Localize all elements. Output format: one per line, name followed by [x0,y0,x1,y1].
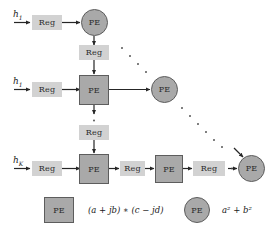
legend-pe-square: PE [44,197,74,223]
reg-row3-third[interactable]: Reg [193,161,225,176]
diagram-canvas: h1 h1 hK Reg PE Reg Reg PE PE Reg Reg PE… [0,0,272,236]
arrow-diagonal-to-pe5 [234,148,243,157]
legend-square-formula: (a + jb) ∗ (c − jd) [88,205,163,215]
reg-vertical-bottom[interactable]: Reg [79,125,109,140]
reg-row3-first[interactable]: Reg [32,161,62,176]
legend-circle-formula: a² + b² [222,205,252,215]
reg-row1[interactable]: Reg [32,15,62,30]
vertical-ellipsis-dot [93,120,95,122]
pe-row2-square[interactable]: PE [79,75,109,105]
pe-row3-circle[interactable]: PE [238,155,265,182]
reg-vertical-top[interactable]: Reg [79,45,109,60]
legend-pe-circle: PE [184,197,210,223]
input-label-row-2: h1 [13,76,23,88]
reg-row2[interactable]: Reg [32,82,62,97]
pe-row1-circle[interactable]: PE [81,9,108,36]
input-label-row-1: h1 [13,9,23,21]
input-label-row-3: hK [13,155,23,167]
reg-row3-second[interactable]: Reg [120,161,145,176]
pe-row3-first[interactable]: PE [79,154,109,184]
pe-row2-circle[interactable]: PE [151,76,178,103]
connection-layer [0,0,272,236]
pe-row3-second[interactable]: PE [155,155,183,183]
row3-ellipsis-dot [231,168,233,170]
